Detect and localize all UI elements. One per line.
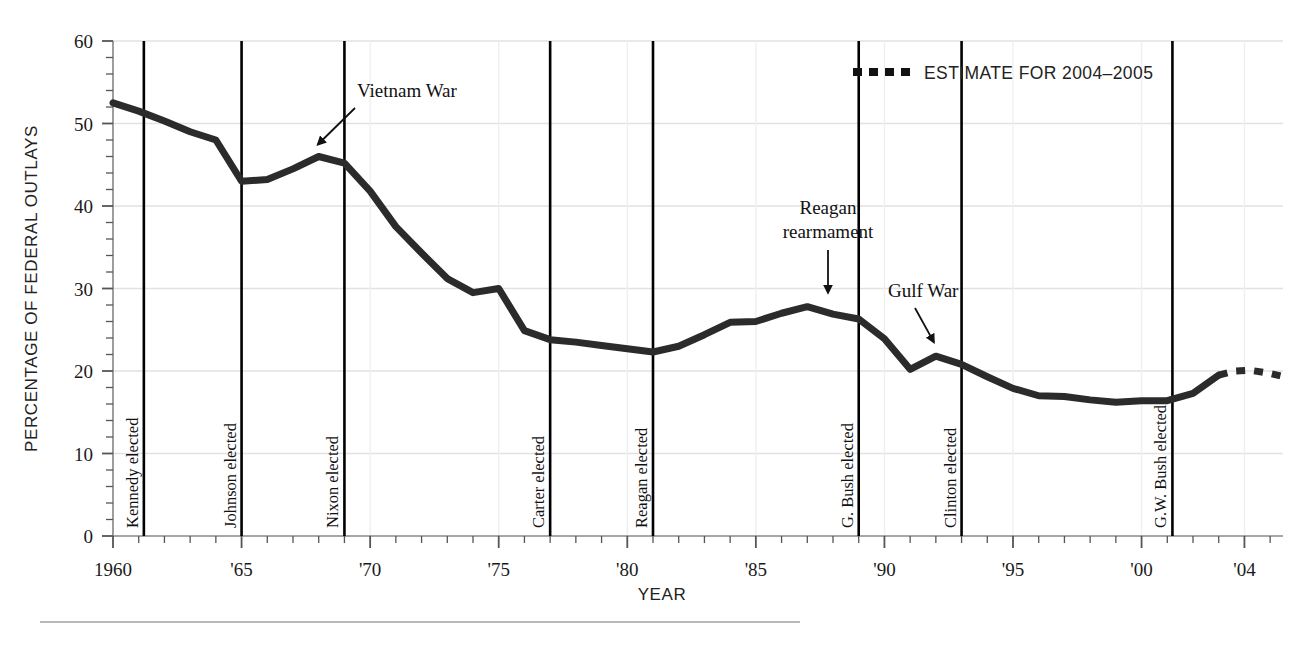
y-tick-label: 40: [74, 196, 93, 217]
annotation-arrow-gulf-war: [915, 308, 934, 342]
x-tick-label: '75: [487, 559, 509, 580]
event-label: Nixon elected: [323, 435, 342, 528]
x-tick-label: '00: [1130, 559, 1152, 580]
x-tick-label: '90: [873, 559, 895, 580]
event-label: Clinton elected: [941, 427, 960, 528]
axes-layer: 01020304050601960'65'70'75'80'85'90'95'0…: [74, 31, 1283, 580]
event-label: Kennedy elected: [123, 417, 142, 528]
y-tick-label: 10: [74, 444, 93, 465]
x-axis-title: YEAR: [638, 585, 687, 604]
x-tick-label: 1960: [94, 559, 132, 580]
annotations-layer: Vietnam WarReaganrearmamentGulf War: [318, 80, 959, 342]
chart-container: 01020304050601960'65'70'75'80'85'90'95'0…: [0, 0, 1312, 647]
x-tick-label: '65: [230, 559, 252, 580]
annotation-label-reagan-rearmament-line1: Reagan: [800, 197, 857, 218]
federal-outlays-line-chart: 01020304050601960'65'70'75'80'85'90'95'0…: [0, 0, 1312, 647]
x-tick-label: '80: [616, 559, 638, 580]
event-label: Johnson elected: [221, 422, 240, 528]
x-tick-label: '95: [1002, 559, 1024, 580]
y-tick-label: 20: [74, 361, 93, 382]
y-tick-label: 60: [74, 31, 93, 52]
x-tick-label: '70: [359, 559, 381, 580]
legend: ESTIMATE FOR 2004–2005: [853, 63, 1153, 83]
gridlines-layer: [113, 41, 1283, 536]
event-label: G. Bush elected: [838, 422, 857, 528]
y-axis-title: PERCENTAGE OF FEDERAL OUTLAYS: [22, 125, 41, 452]
axis-titles-layer: YEARPERCENTAGE OF FEDERAL OUTLAYS: [22, 125, 686, 604]
annotation-arrow-vietnam-war: [318, 108, 355, 145]
annotation-label-reagan-rearmament-line2: rearmament: [783, 221, 874, 242]
data-series-layer: [113, 103, 1280, 402]
y-tick-label: 30: [74, 279, 93, 300]
legend-label-estimate: ESTIMATE FOR 2004–2005: [924, 63, 1153, 83]
x-tick-label: '04: [1233, 559, 1256, 580]
annotation-label-vietnam-war: Vietnam War: [357, 80, 458, 101]
event-label: Carter elected: [529, 435, 548, 528]
y-tick-label: 50: [74, 114, 93, 135]
event-label: G.W. Bush elected: [1151, 404, 1170, 528]
y-tick-label: 0: [84, 526, 94, 547]
event-label: Reagan elected: [632, 427, 651, 528]
series-line-actual: [113, 103, 1219, 402]
x-tick-label: '85: [745, 559, 767, 580]
annotation-label-gulf-war: Gulf War: [888, 280, 959, 301]
